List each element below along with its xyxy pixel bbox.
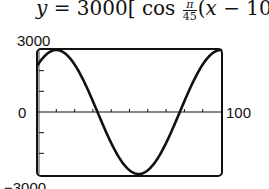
plot-area <box>0 0 269 189</box>
